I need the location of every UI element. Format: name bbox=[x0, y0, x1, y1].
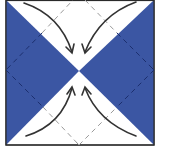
origami-diagram bbox=[0, 0, 188, 149]
